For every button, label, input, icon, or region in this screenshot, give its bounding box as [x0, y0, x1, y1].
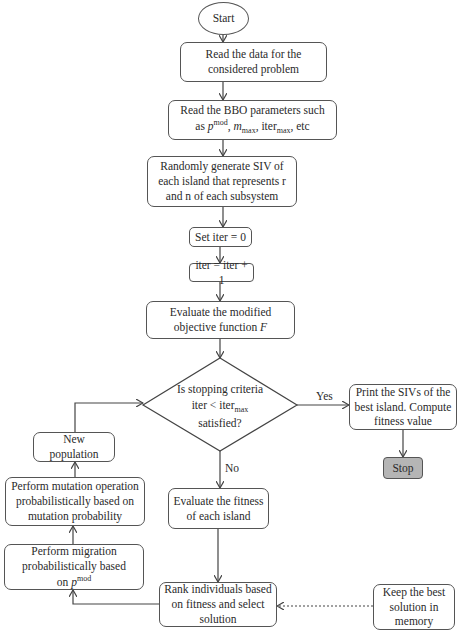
- new-population-label: New population: [38, 432, 110, 462]
- stopping-criteria-decision: Is stopping criteria iter < itermax sati…: [160, 382, 280, 431]
- evaluate-fitness-label: Evaluate the fitness of each island: [173, 494, 264, 524]
- mutation-label: Perform mutation operation probabilistic…: [10, 479, 140, 524]
- set-iter-label: Set iter = 0: [195, 230, 246, 245]
- random-generate-node: Randomly generate SIV of each island tha…: [147, 156, 297, 207]
- keep-best-node: Keep the best solution in memory: [373, 584, 455, 630]
- random-generate-label: Randomly generate SIV of each island tha…: [152, 159, 292, 204]
- new-population-node: New population: [33, 432, 115, 462]
- read-bbo-parameters-node: Read the BBO parameters such as pmod, mm…: [168, 100, 337, 140]
- read-bbo-line1: Read the BBO parameters such: [180, 103, 324, 118]
- stop-label: Stop: [392, 461, 413, 476]
- print-sivs-node: Print the SIVs of the best island. Compu…: [349, 384, 457, 430]
- read-bbo-line2: as pmod, mmax, itermax, etc: [195, 118, 309, 137]
- start-node: Start: [198, 2, 249, 35]
- no-edge-label: No: [225, 462, 239, 474]
- yes-edge-label: Yes: [316, 390, 333, 402]
- iter-increment-label: iter = iter + 1: [194, 258, 249, 288]
- rank-individuals-node: Rank individuals based on fitness and se…: [159, 582, 277, 627]
- evaluate-objective-label: Evaluate the modified objective function…: [151, 305, 290, 335]
- print-sivs-label: Print the SIVs of the best island. Compu…: [354, 385, 452, 430]
- migration-label: Perform migration probabilistically base…: [15, 544, 133, 590]
- read-data-node: Read the data for the considered problem: [180, 42, 327, 82]
- start-label: Start: [213, 11, 235, 26]
- evaluate-fitness-node: Evaluate the fitness of each island: [168, 488, 269, 529]
- mutation-node: Perform mutation operation probabilistic…: [5, 477, 145, 526]
- rank-individuals-label: Rank individuals based on fitness and se…: [164, 582, 272, 627]
- read-data-label: Read the data for the considered problem: [195, 47, 312, 77]
- iter-increment-node: iter = iter + 1: [189, 263, 254, 282]
- migration-node: Perform migration probabilistically base…: [4, 544, 144, 590]
- set-iter-node: Set iter = 0: [189, 227, 252, 247]
- stop-node: Stop: [383, 457, 423, 479]
- evaluate-objective-node: Evaluate the modified objective function…: [146, 301, 295, 339]
- keep-best-label: Keep the best solution in memory: [378, 585, 450, 630]
